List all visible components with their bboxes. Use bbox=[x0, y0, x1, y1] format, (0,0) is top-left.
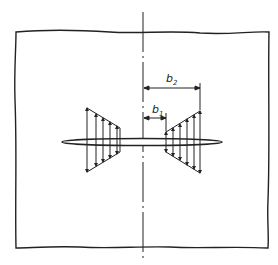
label-b2: b2 bbox=[166, 72, 178, 87]
crack-diagram: b2 b1 bbox=[0, 0, 278, 265]
crack bbox=[62, 139, 222, 146]
label-b1: b1 bbox=[152, 103, 163, 118]
